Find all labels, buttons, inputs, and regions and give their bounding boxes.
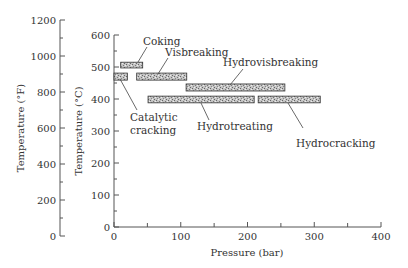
pressure-tick-label: 100 [171, 231, 190, 242]
coking-bar [121, 62, 143, 68]
visbreaking-bar [137, 73, 187, 80]
hydrovisbreaking-bar [186, 84, 285, 91]
process-bars [114, 62, 320, 103]
celsius-tick-label: 100 [91, 190, 110, 201]
celsius-tick-label: 300 [91, 126, 110, 137]
celsius-tick-label: 400 [91, 94, 110, 105]
visbreaking-leader [158, 58, 168, 74]
fahrenheit-tick-label: 600 [37, 123, 56, 134]
celsius-tick-label: 0 [104, 222, 110, 233]
pressure-tick-label: 300 [305, 231, 324, 242]
celsius-tick-label: 500 [91, 62, 110, 73]
hydrovisbreaking-leader [230, 69, 243, 85]
hydrovisbreaking-label: Hydrovisbreaking [223, 56, 319, 68]
hydrocracking-label: Hydrocracking [296, 137, 376, 149]
catalytic-label-line1: Catalytic [130, 111, 178, 123]
hydrotreating-leader [201, 103, 209, 120]
catalytic-leader [120, 79, 137, 110]
celsius-axis: 0100200300400500600 [91, 30, 119, 233]
fahrenheit-axis: 020040060080010001200 [31, 15, 65, 242]
hydrocracking-bar [258, 96, 320, 103]
fahrenheit-tick-label: 1000 [31, 51, 56, 62]
pressure-axis: 0100200300400 [111, 222, 391, 242]
pressure-tick-label: 0 [111, 231, 117, 242]
fahrenheit-axis-title: Temperature (°F) [15, 84, 26, 173]
catalytic-label-line2: cracking [130, 124, 177, 136]
hydrocracking-leader [288, 103, 303, 128]
celsius-axis-title: Temperature (°C) [73, 86, 84, 175]
pressure-axis-title: Pressure (bar) [211, 247, 284, 258]
celsius-tick-label: 600 [91, 30, 110, 41]
pressure-tick-label: 400 [371, 231, 390, 242]
catalytic-cracking-bar [114, 73, 127, 80]
fahrenheit-tick-label: 400 [37, 159, 56, 170]
hydrotreating-bar [148, 96, 254, 103]
hydrotreating-label: Hydrotreating [197, 120, 273, 132]
fahrenheit-tick-label: 800 [37, 87, 56, 98]
fahrenheit-tick-label: 0 [50, 231, 56, 242]
pressure-tick-label: 200 [238, 231, 257, 242]
process-conditions-chart: 020040060080010001200 Temperature (°F) 0… [0, 0, 408, 268]
coking-leader [138, 47, 147, 62]
fahrenheit-tick-label: 200 [37, 195, 56, 206]
fahrenheit-tick-label: 1200 [31, 15, 56, 26]
visbreaking-label: Visbreaking [164, 46, 229, 58]
celsius-tick-label: 200 [91, 158, 110, 169]
